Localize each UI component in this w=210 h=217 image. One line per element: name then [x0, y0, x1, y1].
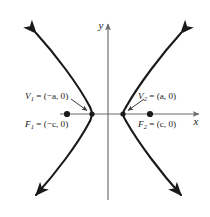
vertex-left-leader-line [71, 99, 87, 111]
right-branch-lower [126, 121, 181, 195]
axis-group [60, 24, 199, 200]
focus-right-point [147, 111, 153, 117]
y-axis-label: y [98, 19, 104, 31]
focus-right-label-eq: = (c, 0) [147, 119, 176, 129]
vertex-right-point [120, 111, 125, 116]
vertex-left-label: V1 = (−a, 0) [25, 91, 68, 102]
vertex-right-label: V2 = (a, 0) [138, 91, 176, 102]
focus-left-label-eq: = (−c, 0) [34, 119, 68, 129]
focus-left-point [64, 111, 70, 117]
focus-right-label: F2 = (c, 0) [137, 119, 176, 130]
focus-left-label: F1 = (−c, 0) [24, 119, 68, 130]
vertex-left-label-eq: = (−a, 0) [34, 91, 68, 101]
hyperbola-figure: y x V1 = (−a, 0) V2 = (a, 0) F1 = (−c, 0… [0, 0, 210, 217]
left-branch-lower [36, 121, 90, 195]
x-axis-label: x [193, 115, 199, 127]
vertex-left-point [89, 111, 94, 116]
vertex-right-label-eq: = (a, 0) [147, 91, 176, 101]
hyperbola-diagram-svg: y x V1 = (−a, 0) V2 = (a, 0) F1 = (−c, 0… [0, 0, 210, 217]
